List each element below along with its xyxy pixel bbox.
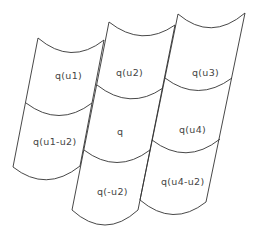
cell-grid-diagram: q(u1) q(u2) q(u3) q(u1-u2) q q(u4) q(-u2… bbox=[0, 0, 257, 237]
arc-col2-top bbox=[109, 22, 175, 36]
label-q-minus-u2: q(-u2) bbox=[97, 186, 128, 197]
arc-col2-lower bbox=[84, 150, 150, 163]
label-q: q bbox=[117, 126, 123, 137]
column-left bbox=[13, 38, 104, 180]
arc-col3-bottom bbox=[140, 200, 206, 215]
arc-col3-lower bbox=[152, 139, 220, 153]
label-q-u2: q(u2) bbox=[116, 67, 143, 78]
edge-col3-right bbox=[206, 13, 245, 202]
edge-col2-left bbox=[72, 22, 109, 210]
cell-labels: q(u1) q(u2) q(u3) q(u1-u2) q q(u4) q(-u2… bbox=[33, 67, 219, 197]
arc-col1-mid bbox=[26, 103, 92, 116]
label-q-u3: q(u3) bbox=[192, 67, 219, 78]
label-q-u4: q(u4) bbox=[179, 124, 206, 135]
edge-col3-left bbox=[140, 14, 178, 200]
label-q-u4-minus-u2: q(u4-u2) bbox=[161, 176, 204, 187]
edge-col1-left bbox=[13, 38, 38, 167]
label-q-u1-minus-u2: q(u1-u2) bbox=[33, 136, 76, 147]
label-q-u1: q(u1) bbox=[55, 70, 82, 81]
edge-col1-right bbox=[80, 40, 104, 166]
arc-col2-bottom bbox=[72, 210, 138, 225]
arc-col1-bottom bbox=[13, 166, 80, 180]
arc-col3-top bbox=[178, 13, 245, 28]
arc-col3-upper bbox=[165, 78, 232, 91]
arc-col1-top bbox=[38, 38, 104, 53]
arc-col2-upper bbox=[97, 85, 163, 99]
